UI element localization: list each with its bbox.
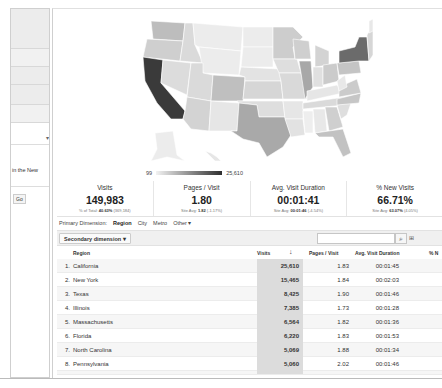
metric-label: % New Visits [347,184,442,191]
state-hawaii [205,151,221,161]
metric-value: 1.80 [154,194,250,206]
sort-desc-icon[interactable]: ↓ [289,248,293,255]
column-header-region[interactable]: Region [73,250,90,256]
region-link[interactable]: New York [73,277,98,283]
column-header-avg-duration[interactable]: Avg. Visit Duration [355,250,399,256]
metric-subtext: Site Avg: 1.82 (-1.17%) [154,208,250,213]
map-legend: 99 25,610 [146,168,243,178]
legend-max: 25,610 [226,170,243,176]
dimension-other[interactable]: Other ▾ [173,220,191,226]
secondary-dimension-button[interactable]: Secondary dimension ▾ [59,233,131,244]
table-toolbar: Secondary dimension ▾ ⌕ ⊞ [57,230,442,246]
state-north-dakota [243,27,273,47]
table-header: Region Visits ↓ Pages / Visit Avg. Visit… [57,247,442,258]
dimension-metro[interactable]: Metro [153,220,167,226]
column-header-new-visits[interactable]: % N [429,250,438,256]
chevron-down-icon: ▾ [46,134,49,141]
sidebar-text: in the New [12,167,38,173]
metric-label: Visits [57,184,153,191]
divider [0,378,442,379]
state-indiana [313,67,323,87]
region-link[interactable]: Pennsylvania [73,361,109,367]
us-choropleth-map[interactable] [133,15,373,165]
dimension-region[interactable]: Region [113,220,132,226]
sidebar-block [11,85,50,105]
region-link[interactable]: North Carolina [73,347,112,353]
state-colorado [211,75,245,101]
analytics-screen: ▾ in the New Go [0,0,442,388]
state-south-dakota [241,47,273,67]
legend-gradient [156,171,222,175]
search-icon[interactable]: ⌕ [395,233,407,244]
table-search-input[interactable] [317,233,395,244]
legend-min: 99 [146,170,152,176]
region-link[interactable]: California [73,263,98,269]
state-alabama [313,109,327,133]
state-nebraska [239,67,281,81]
table-body: 1.California25,6101.8300:01:45 2.New Yor… [57,259,442,375]
sidebar-block [11,49,50,67]
state-ohio [323,63,339,85]
metric-value: 66.71% [347,194,442,206]
region-link[interactable]: Florida [73,333,91,339]
summary-metrics: Visits 149,983 % of Total: 40.63% (369,1… [57,181,442,217]
table-row-partial [57,371,442,375]
table-row[interactable]: 7.North Carolina5,0691.8800:01:34 [57,343,442,357]
state-arkansas [283,101,303,119]
sidebar-block [11,105,50,123]
metric-new-visits: % New Visits 66.71% Site Avg: 63.07% (4.… [347,181,442,216]
table-row[interactable]: 3.Texas8,4251.9000:01:46 [57,287,442,301]
state-arizona [183,97,211,131]
state-wisconsin [293,39,311,59]
left-sidebar: ▾ in the New Go [10,8,50,378]
report-panel: 99 25,610 Visits 149,983 % of Total: 40.… [52,8,442,378]
divider [11,186,50,187]
table-row[interactable]: 1.California25,6101.8300:01:45 [57,259,442,273]
state-florida [315,129,351,157]
primary-dimension-bar: Primary Dimension: Region City Metro Oth… [59,220,191,226]
dimension-city[interactable]: City [138,220,147,226]
state-kansas [243,81,283,99]
state-new-york [339,37,369,63]
region-link[interactable]: Illinois [73,305,90,311]
sidebar-block [11,67,50,85]
go-button[interactable]: Go [13,194,26,204]
state-new-mexico [209,101,239,131]
column-header-visits[interactable]: Visits [257,250,270,256]
table-row[interactable]: 6.Florida6,2201.8300:01:53 [57,329,442,343]
region-link[interactable]: Massachusetts [73,319,113,325]
sidebar-dropdown[interactable]: ▾ [11,131,50,145]
table-row[interactable]: 4.Illinois7,3851.7300:01:28 [57,301,442,315]
metric-label: Avg. Visit Duration [251,184,347,191]
metric-subtext: Site Avg: 00:01:46 (-4.54%) [251,208,347,213]
metric-pages-per-visit: Pages / Visit 1.80 Site Avg: 1.82 (-1.17… [154,181,251,216]
sidebar-block [11,9,50,49]
state-wyoming [199,47,241,75]
metric-avg-duration: Avg. Visit Duration 00:01:41 Site Avg: 0… [251,181,348,216]
metric-subtext: % of Total: 40.63% (369,184) [57,208,153,213]
primary-dimension-label: Primary Dimension: [59,220,107,226]
state-alaska [151,131,185,161]
state-washington [151,21,185,41]
view-options-icon[interactable]: ⊞ [409,234,414,241]
table-row[interactable]: 8.Pennsylvania5,0602.0200:01:46 [57,357,442,371]
metric-visits: Visits 149,983 % of Total: 40.63% (369,1… [57,181,154,216]
metric-value: 149,983 [57,194,153,206]
metric-label: Pages / Visit [154,184,250,191]
metric-value: 00:01:41 [251,194,347,206]
column-header-pages-per-visit[interactable]: Pages / Visit [309,250,338,256]
region-link[interactable]: Texas [73,291,89,297]
state-michigan [315,45,329,67]
state-montana [193,23,243,51]
table-row[interactable]: 5.Massachusetts6,5641.8200:01:36 [57,315,442,329]
state-mississippi [303,111,313,133]
metric-subtext: Site Avg: 63.07% (4.05%) [347,208,442,213]
table-row[interactable]: 2.New York15,4651.8400:02:03 [57,273,442,287]
state-maine [369,19,373,33]
